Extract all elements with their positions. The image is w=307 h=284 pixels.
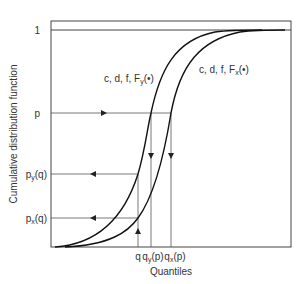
curve-label-y: c, d, f, Fy(•) xyxy=(104,73,154,86)
arrow-left-icon xyxy=(90,215,96,221)
tick-p: p xyxy=(34,108,40,119)
cdf-curve-y xyxy=(55,30,262,247)
tick-py-q: py(q) xyxy=(26,169,47,182)
cdf-quantile-diagram: 1 p py(q) px(q) q qy(p) qx(p) Quantiles … xyxy=(0,0,307,284)
arrow-right-icon xyxy=(101,110,107,116)
arrow-down-icon xyxy=(148,153,154,159)
x-axis-label: Quantiles xyxy=(150,266,192,277)
y-axis-label: Cumulative distribution function xyxy=(8,65,19,204)
arrow-down-icon xyxy=(168,153,174,159)
arrow-up-icon xyxy=(135,228,141,234)
tick-px-q: px(q) xyxy=(26,213,47,225)
curve-label-x: c, d, f, Fx(•) xyxy=(199,64,249,76)
tick-q: q xyxy=(135,251,141,262)
arrow-left-icon xyxy=(90,171,96,177)
tick-qx-p: qx(p) xyxy=(164,251,185,263)
tick-qy-p: qy(p) xyxy=(142,251,163,264)
tick-one: 1 xyxy=(34,25,40,36)
cdf-curve-x xyxy=(65,30,285,247)
